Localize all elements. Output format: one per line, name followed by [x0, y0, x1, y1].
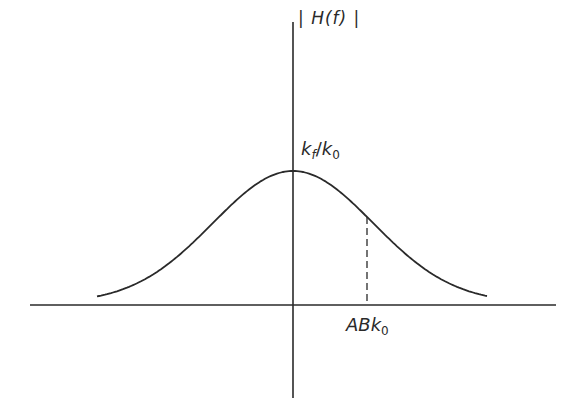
- x-marker-label: ABk0: [346, 314, 389, 338]
- abs-bar-left: |: [298, 8, 305, 28]
- peak-label-k2: k: [322, 138, 332, 159]
- x-marker-label-sub: 0: [381, 324, 389, 338]
- y-axis-label-text: H(f): [311, 8, 347, 28]
- gaussian-diagram: [0, 0, 583, 415]
- peak-value-label: kf/k0: [301, 138, 340, 162]
- abs-bar-right: |: [354, 8, 361, 28]
- gaussian-curve: [97, 171, 487, 296]
- peak-label-k: k: [301, 138, 311, 159]
- y-axis-label: | H(f) |: [298, 8, 360, 28]
- x-marker-label-main: ABk: [346, 314, 381, 335]
- peak-label-sub-0: 0: [332, 148, 340, 162]
